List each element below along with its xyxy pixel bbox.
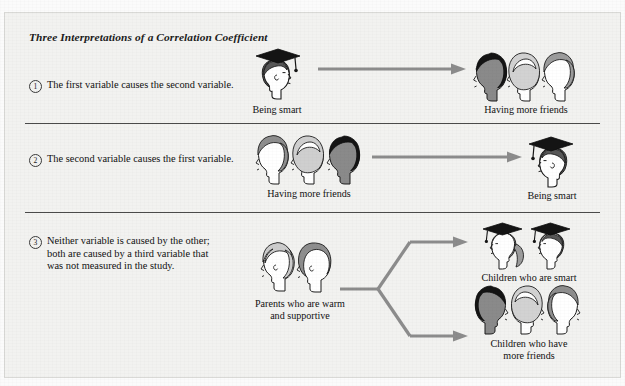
graduate-ponytail-head-icon — [483, 223, 523, 269]
row-2-graduate-figure — [526, 132, 578, 188]
row-3-friend-children-figure — [474, 283, 582, 335]
row-3-text-line-3: was not measured in the study. — [47, 260, 247, 273]
three-friends-right-icon-2 — [254, 133, 364, 185]
three-friends-left-icon — [474, 283, 582, 335]
haired-parent-head-icon — [297, 243, 331, 292]
row-2-text: The second variable causes the first var… — [47, 153, 234, 166]
gray-haired-head-icon — [542, 53, 574, 101]
two-parents-icon — [258, 239, 336, 294]
right-arrow-icon — [372, 150, 522, 164]
row-1-effect-label: Having more friends — [466, 104, 586, 116]
graduate-head-icon — [526, 132, 578, 188]
row-3-friend-children-label: Children who have more friends — [464, 338, 594, 361]
right-arrow-icon — [318, 62, 466, 76]
divider-rule-2 — [25, 212, 600, 213]
row-3-friend-children-label-line-1: Children who have — [464, 338, 594, 350]
graduate-head-icon — [251, 44, 303, 100]
dark-haired-head-icon — [327, 136, 360, 184]
row-2-number: 2 — [29, 154, 42, 167]
row-1-friends-figure — [472, 50, 578, 102]
row-1-number: 1 — [29, 80, 42, 93]
row-1-cause-label: Being smart — [231, 104, 323, 116]
row-3-branching-arrow — [340, 229, 470, 349]
dark-haired-head-icon — [475, 286, 508, 334]
branching-right-arrow-icon — [340, 229, 470, 349]
two-graduates-left-icon — [482, 216, 574, 270]
row-2-cause-label: Having more friends — [249, 188, 369, 200]
row-3-friend-children-label-line-2: more friends — [464, 350, 594, 362]
row-1-right-arrow — [318, 62, 466, 76]
light-haired-head-icon — [507, 53, 540, 101]
row-3-smart-children-label: Children who are smart — [466, 272, 592, 284]
figure-page: Three Interpretations of a Correlation C… — [0, 0, 625, 386]
row-2-effect-label: Being smart — [506, 190, 598, 202]
row-3-smart-children-figure — [482, 216, 574, 270]
row-1-graduate-figure — [251, 44, 303, 100]
three-friends-right-icon — [472, 50, 578, 102]
row-3-text-line-1: Neither variable is caused by the other; — [47, 235, 247, 248]
light-haired-head-icon — [511, 286, 544, 334]
row-3-text-line-2: both are caused by a third variable that — [47, 248, 247, 261]
divider-rule-1 — [25, 123, 600, 124]
row-1-text: The first variable causes the second var… — [47, 79, 234, 92]
row-3-parents-figure — [258, 239, 336, 294]
gray-haired-head-icon — [256, 136, 288, 184]
light-haired-head-icon — [291, 136, 324, 184]
dark-haired-head-icon — [474, 53, 508, 101]
row-2-right-arrow — [372, 150, 522, 164]
row-3-text: Neither variable is caused by the other;… — [47, 235, 247, 273]
row-3-number: 3 — [29, 236, 42, 249]
balding-parent-head-icon — [261, 243, 294, 291]
gray-haired-head-icon — [548, 286, 580, 334]
row-2-friends-figure — [254, 133, 364, 185]
graduate-head-icon — [531, 223, 570, 269]
figure-title: Three Interpretations of a Correlation C… — [29, 31, 268, 43]
